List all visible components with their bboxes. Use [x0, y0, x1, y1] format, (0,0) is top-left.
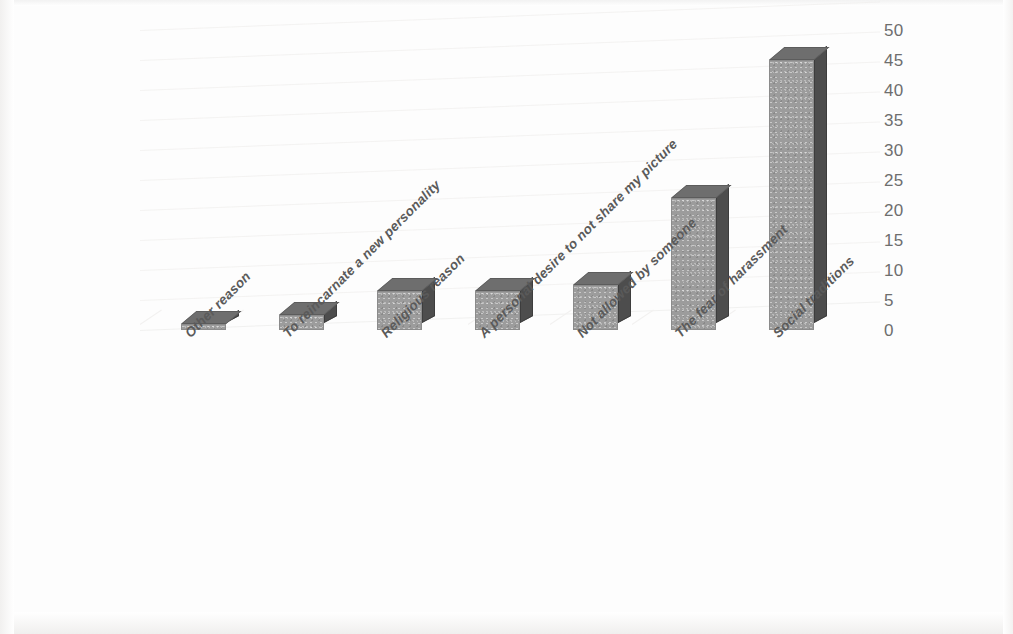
y-axis-tick-label: 20	[884, 202, 920, 219]
y-axis-tick-label: 5	[884, 292, 920, 309]
y-axis: 50454035302520151050	[884, 30, 924, 330]
y-axis-tick-label: 30	[884, 142, 920, 159]
x-axis: Other reasonTo reincarnate a new persona…	[140, 330, 900, 620]
chart-plot-area	[140, 30, 880, 330]
floor-depth-line	[140, 310, 162, 325]
y-axis-tick-label: 35	[884, 112, 920, 129]
y-axis-tick-label: 45	[884, 52, 920, 69]
floor-depth-line	[550, 310, 572, 325]
bar	[769, 46, 814, 330]
y-axis-tick-label: 15	[884, 232, 920, 249]
scan-edge-left	[0, 0, 14, 634]
scan-edge-right	[1003, 0, 1013, 634]
y-axis-tick-label: 40	[884, 82, 920, 99]
y-axis-tick-label: 10	[884, 262, 920, 279]
bar-front-face	[769, 60, 814, 330]
y-axis-tick-label: 50	[884, 22, 920, 39]
y-axis-tick-label: 25	[884, 172, 920, 189]
chart-page: 50454035302520151050 Other reasonTo rein…	[0, 0, 1013, 634]
